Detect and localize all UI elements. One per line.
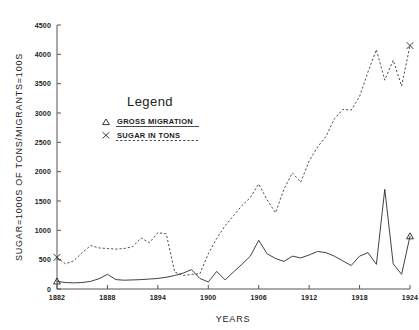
y-tick-label-1000: 1000 [35, 227, 51, 234]
y-tick-label-2500: 2500 [35, 139, 51, 146]
x-icon [103, 132, 110, 138]
x-tick-label-1894: 1894 [150, 294, 166, 301]
marker-x-sugar-1924 [407, 42, 414, 49]
legend-title: Legend [127, 94, 173, 109]
y-tick-label-500: 500 [39, 256, 51, 263]
x-tick-label-1924: 1924 [402, 294, 418, 301]
chart-svg: 050010001500200025003000350040004500 188… [0, 0, 419, 330]
x-tick-label-1888: 1888 [99, 294, 115, 301]
x-tick-label-1912: 1912 [301, 294, 317, 301]
x-tick-label-1918: 1918 [351, 294, 367, 301]
y-tick-label-0: 0 [47, 286, 51, 293]
y-tick-label-3500: 3500 [35, 80, 51, 87]
migration-sugar-chart: 050010001500200025003000350040004500 188… [0, 0, 419, 330]
legend-item-gross-migration: GROSS MIGRATION [103, 117, 199, 127]
legend: Legend GROSS MIGRATION SUGAR IN TONS [103, 94, 199, 141]
y-tick-label-4500: 4500 [35, 22, 51, 29]
series-line-sugar-in-tons [57, 46, 410, 276]
legend-label-gross-migration: GROSS MIGRATION [117, 117, 193, 126]
series-markers [54, 42, 414, 284]
x-tick-label-1882: 1882 [49, 294, 65, 301]
legend-label-sugar-in-tons: SUGAR IN TONS [117, 131, 180, 140]
x-tick-label-1906: 1906 [251, 294, 267, 301]
y-tick-label-1500: 1500 [35, 198, 51, 205]
y-axis-title: SUGAR=1000S OF TONS/MIGRANTS=100S [14, 53, 24, 261]
y-tick-label-3000: 3000 [35, 110, 51, 117]
x-axis-ticks: 18821888189419001906191219181924 [49, 285, 418, 301]
y-tick-label-4000: 4000 [35, 51, 51, 58]
triangle-icon [103, 119, 110, 125]
legend-item-sugar-in-tons: SUGAR IN TONS [103, 131, 199, 141]
series-line-gross-migration [57, 189, 410, 283]
x-tick-label-1900: 1900 [200, 294, 216, 301]
x-axis-title: YEARS [216, 314, 251, 324]
y-tick-label-2000: 2000 [35, 168, 51, 175]
